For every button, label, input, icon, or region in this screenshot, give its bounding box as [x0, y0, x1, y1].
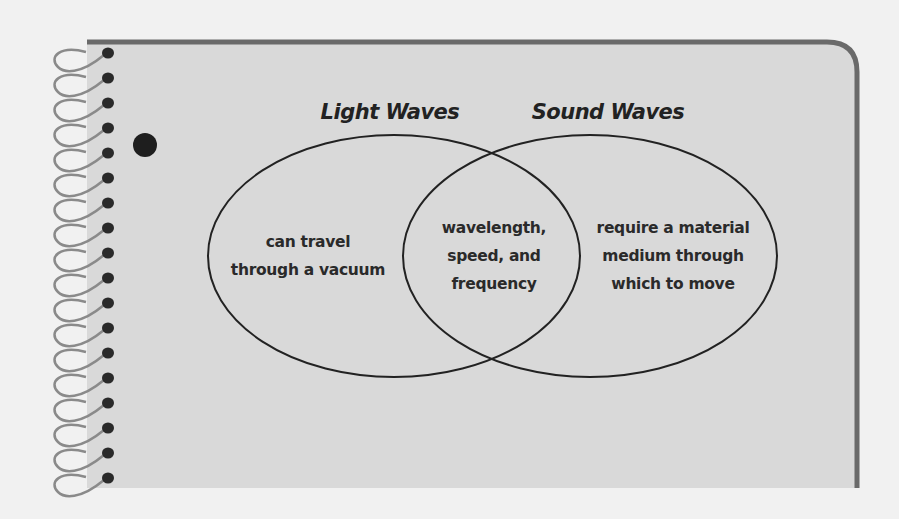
light-waves-title: Light Waves [300, 100, 480, 124]
binding-hole [102, 123, 114, 134]
binding-hole [102, 373, 114, 384]
binding-hole [102, 423, 114, 434]
light-waves-unique: can travel through a vacuum [218, 228, 398, 284]
binding-hole [102, 98, 114, 109]
binding-hole [102, 398, 114, 409]
sound-waves-unique: require a material medium through which … [583, 214, 763, 298]
light-line-1: can travel [218, 228, 398, 256]
binding-hole [102, 198, 114, 209]
binding-hole [102, 323, 114, 334]
binding-hole [102, 448, 114, 459]
binding-hole [102, 173, 114, 184]
overlap-line-1: wavelength, [414, 214, 574, 242]
punch-hole [133, 133, 157, 157]
binding-hole [102, 248, 114, 259]
sound-line-3: which to move [583, 270, 763, 298]
binding-hole [102, 73, 114, 84]
overlap-region: wavelength, speed, and frequency [414, 214, 574, 298]
binding-hole [102, 298, 114, 309]
overlap-line-3: frequency [414, 270, 574, 298]
binding-hole [102, 273, 114, 284]
overlap-line-2: speed, and [414, 242, 574, 270]
light-line-2: through a vacuum [218, 256, 398, 284]
binding-hole [102, 48, 114, 59]
binding-hole [102, 348, 114, 359]
binding-hole [102, 148, 114, 159]
sound-line-2: medium through [583, 242, 763, 270]
sound-waves-title: Sound Waves [518, 100, 698, 124]
binding-hole [102, 473, 114, 484]
binding-hole [102, 223, 114, 234]
sound-line-1: require a material [583, 214, 763, 242]
